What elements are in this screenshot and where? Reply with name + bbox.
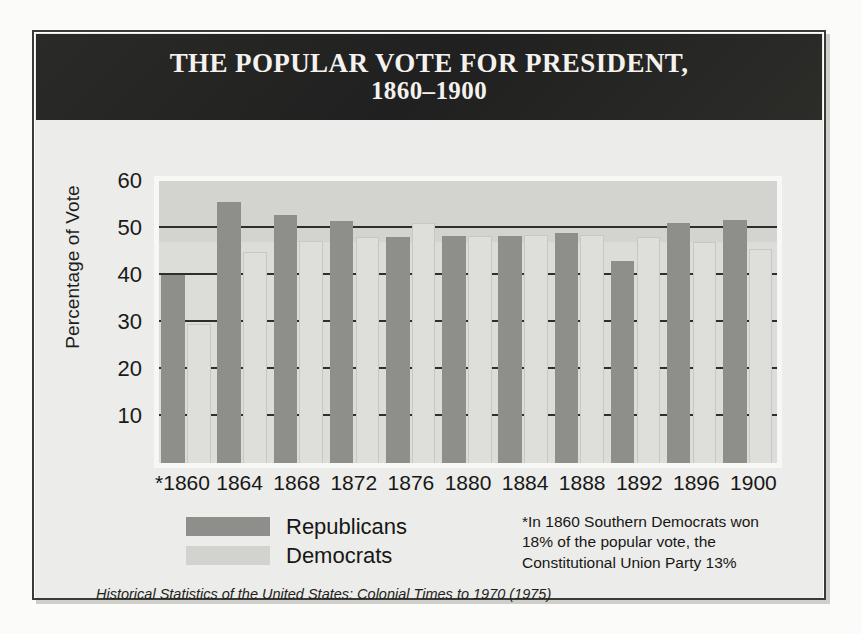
x-axis-tick-1884: 1884 <box>497 472 554 493</box>
bar-democrat <box>356 237 380 463</box>
bar-republican <box>330 221 354 463</box>
y-axis-tick-labels: 605040302010 <box>98 120 142 480</box>
x-axis-tick-1872: 1872 <box>325 472 382 493</box>
x-axis-tick-1900: 1900 <box>725 472 782 493</box>
plot-area <box>159 181 777 463</box>
bar-democrat <box>187 324 211 463</box>
chart-title-line-1: THE POPULAR VOTE FOR PRESIDENT, <box>170 49 689 78</box>
legend-label-republicans: Republicans <box>286 516 407 538</box>
x-axis-tick-1888: 1888 <box>554 472 611 493</box>
bar-republican <box>723 220 747 463</box>
x-axis-tick-1868: 1868 <box>268 472 325 493</box>
bar-democrat <box>580 235 604 463</box>
chart-title-band: THE POPULAR VOTE FOR PRESIDENT, 1860–190… <box>36 34 822 120</box>
legend-swatch-democrats <box>186 546 270 565</box>
bar-group <box>159 181 215 463</box>
bar-group <box>721 181 777 463</box>
bar-group <box>552 181 608 463</box>
x-axis-tick-1864: 1864 <box>211 472 268 493</box>
bar-republican <box>386 237 410 463</box>
bar-republican <box>217 202 241 463</box>
chart-footnote: *In 1860 Southern Democrats won 18% of t… <box>522 512 792 573</box>
x-axis-tick-star1860: *1860 <box>154 472 211 493</box>
y-axis-tick-30: 30 <box>106 311 142 333</box>
bar-republican <box>555 233 579 463</box>
bar-republican <box>498 236 522 463</box>
bar-republican <box>611 261 635 463</box>
bar-series-container <box>159 181 777 463</box>
chart-legend: RepublicansDemocrats <box>186 512 407 570</box>
bar-republican <box>442 236 466 463</box>
x-axis-tick-1896: 1896 <box>668 472 725 493</box>
bar-group <box>215 181 271 463</box>
y-axis-tick-40: 40 <box>106 264 142 286</box>
bar-group <box>328 181 384 463</box>
bar-republican <box>274 215 298 463</box>
bar-democrat <box>637 237 661 463</box>
y-axis-title: Percentage of Vote <box>62 142 84 392</box>
legend-item-republicans: Republicans <box>186 512 407 541</box>
bar-democrat <box>412 223 436 463</box>
bar-group <box>665 181 721 463</box>
legend-swatch-republicans <box>186 517 270 536</box>
legend-item-democrats: Democrats <box>186 541 407 570</box>
bar-republican <box>161 275 185 463</box>
plot-panel <box>154 176 782 468</box>
x-axis-tick-labels: *186018641868187218761880188418881892189… <box>154 472 782 502</box>
bar-democrat <box>299 241 323 463</box>
legend-label-democrats: Democrats <box>286 545 392 567</box>
bar-democrat <box>524 235 548 463</box>
y-axis-tick-20: 20 <box>106 358 142 380</box>
y-axis-tick-10: 10 <box>106 405 142 427</box>
bar-democrat <box>693 242 717 463</box>
chart-source-note: Historical Statistics of the United Stat… <box>96 586 551 602</box>
bar-group <box>440 181 496 463</box>
chart-body: Percentage of Vote 605040302010 *1860186… <box>36 120 822 598</box>
bar-democrat <box>468 236 492 463</box>
figure-frame: THE POPULAR VOTE FOR PRESIDENT, 1860–190… <box>32 30 826 600</box>
figure-page: THE POPULAR VOTE FOR PRESIDENT, 1860–190… <box>0 0 862 634</box>
bar-republican <box>667 223 691 463</box>
bar-group <box>384 181 440 463</box>
bar-democrat <box>749 249 773 463</box>
y-axis-tick-50: 50 <box>106 217 142 239</box>
bar-group <box>271 181 327 463</box>
bar-group <box>496 181 552 463</box>
x-axis-tick-1892: 1892 <box>611 472 668 493</box>
x-axis-tick-1876: 1876 <box>382 472 439 493</box>
chart-title-line-2: 1860–1900 <box>371 78 487 105</box>
bar-group <box>608 181 664 463</box>
x-axis-tick-1880: 1880 <box>439 472 496 493</box>
y-axis-tick-60: 60 <box>106 170 142 192</box>
bar-democrat <box>243 252 267 464</box>
